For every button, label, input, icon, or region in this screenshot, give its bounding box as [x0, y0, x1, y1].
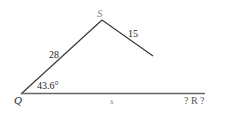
vertex-label-q: Q: [14, 94, 22, 106]
side-label-sr: 15: [128, 28, 138, 39]
triangle-diagram: S Q ? R ? 28 15 s 43.6°: [0, 0, 231, 117]
vertex-label-r: ? R ?: [184, 95, 205, 106]
side-label-qs: 28: [49, 49, 59, 60]
side-label-qr: s: [110, 96, 114, 106]
vertex-label-s: S: [97, 7, 103, 19]
angle-label-q: 43.6°: [37, 80, 59, 91]
side-qs: [21, 20, 102, 94]
